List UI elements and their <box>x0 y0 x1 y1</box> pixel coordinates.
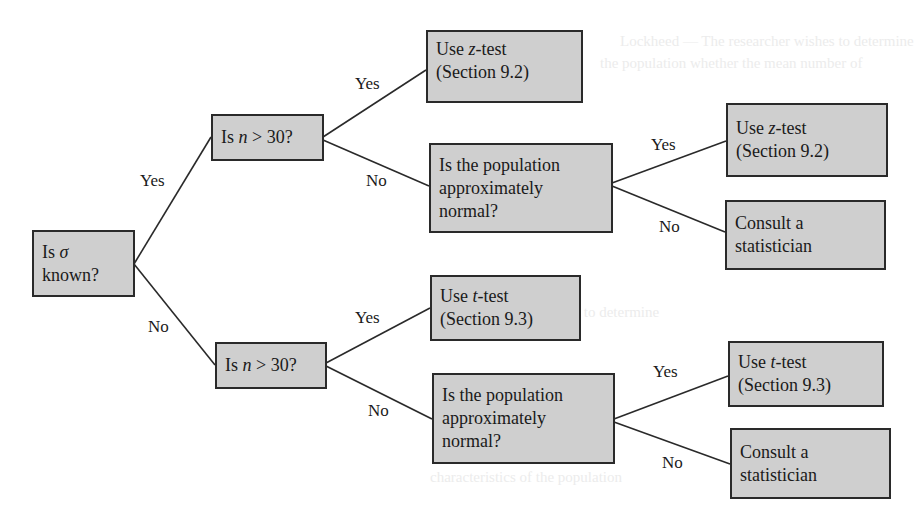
text-prefix: Is <box>225 355 243 375</box>
edge-label-yes: Yes <box>651 136 676 153</box>
text-prefix: Use <box>440 286 473 306</box>
text-suffix: -test <box>776 118 807 138</box>
node-text-line: Use t-test <box>440 285 571 308</box>
node-text-line: Is σ <box>42 241 125 264</box>
node-text-line: approximately <box>439 177 603 200</box>
node-text-line: known? <box>42 264 125 287</box>
text-prefix: Use <box>738 352 771 372</box>
edge-label-no: No <box>662 454 683 471</box>
text-suffix: > 30? <box>252 355 297 375</box>
node-pop-normal-top: Is the population approximately normal? <box>429 143 613 233</box>
node-t-test-2: Use t-test (Section 9.3) <box>728 341 884 407</box>
sigma-symbol: σ <box>60 242 69 262</box>
text-prefix: Use <box>736 118 769 138</box>
node-consult-top: Consult a statistician <box>725 200 886 270</box>
section-reference: (Section 9.3) <box>440 308 571 331</box>
edge-root-no <box>134 264 215 365</box>
node-text-line: Is the population <box>439 154 603 177</box>
node-sigma-known: Is σ known? <box>32 230 135 297</box>
node-t-test-1: Use t-test (Section 9.3) <box>430 275 581 341</box>
variable-z: z <box>469 39 476 59</box>
node-text-line: Use z-test <box>736 117 878 140</box>
node-n-gt-30-top: Is n > 30? <box>211 114 324 161</box>
node-consult-bottom: Consult a statistician <box>730 428 891 499</box>
edge-bottom-pop-yes <box>614 376 728 419</box>
edge-label-no: No <box>659 218 680 235</box>
edge-label-yes: Yes <box>140 172 165 189</box>
edge-label-no: No <box>366 172 387 189</box>
node-text-line: Is n > 30? <box>225 354 317 377</box>
edge-label-no: No <box>148 318 169 335</box>
edge-label-yes: Yes <box>355 75 380 92</box>
variable-n: n <box>239 127 248 147</box>
variable-n: n <box>243 355 252 375</box>
text-suffix: -test <box>776 352 807 372</box>
edge-label-yes: Yes <box>653 363 678 380</box>
text-suffix: -test <box>476 39 507 59</box>
text-prefix: Is <box>42 242 60 262</box>
node-z-test-2: Use z-test (Section 9.2) <box>726 103 888 177</box>
variable-z: z <box>769 118 776 138</box>
node-text-line: Consult a <box>740 441 881 464</box>
edge-root-yes <box>134 137 211 264</box>
node-text-line: Is the population <box>442 384 605 407</box>
node-text-line: Is n > 30? <box>221 126 314 149</box>
node-text-line: approximately <box>442 407 605 430</box>
edge-label-no: No <box>368 402 389 419</box>
node-text-line: normal? <box>442 430 605 453</box>
node-text-line: normal? <box>439 200 603 223</box>
node-text-line: Use t-test <box>738 351 874 374</box>
text-prefix: Use <box>436 39 469 59</box>
node-text-line: Use z-test <box>436 38 573 61</box>
node-text-line: Consult a <box>735 212 876 235</box>
node-z-test-1: Use z-test (Section 9.2) <box>426 30 583 103</box>
text-suffix: > 30? <box>248 127 293 147</box>
edge-label-yes: Yes <box>355 309 380 326</box>
text-suffix: -test <box>478 286 509 306</box>
node-text-line: statistician <box>735 235 876 258</box>
node-pop-normal-bottom: Is the population approximately normal? <box>432 373 615 464</box>
node-text-line: statistician <box>740 464 881 487</box>
section-reference: (Section 9.3) <box>738 374 874 397</box>
node-n-gt-30-bottom: Is n > 30? <box>215 342 327 389</box>
section-reference: (Section 9.2) <box>436 61 573 84</box>
text-prefix: Is <box>221 127 239 147</box>
section-reference: (Section 9.2) <box>736 140 878 163</box>
